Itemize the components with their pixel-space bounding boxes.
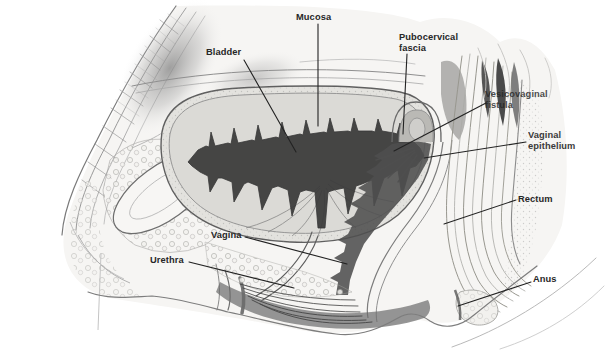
label-vagina: Vagina [211,230,242,241]
label-bladder: Bladder [206,47,241,58]
label-pubocervical-fascia: Pubocervical fascia [399,32,467,53]
label-vaginal-epithelium: Vaginal epithelium [528,130,592,151]
label-anus: Anus [533,274,557,285]
anatomy-figure: Mucosa Bladder Pubocervical fascia Vesic… [0,0,606,354]
label-rectum: Rectum [518,194,553,205]
label-urethra: Urethra [150,255,184,266]
anatomy-illustration [0,0,606,354]
label-mucosa: Mucosa [296,12,331,23]
label-vesicovaginal-fistula: Vesicovaginal fistula [485,89,559,110]
